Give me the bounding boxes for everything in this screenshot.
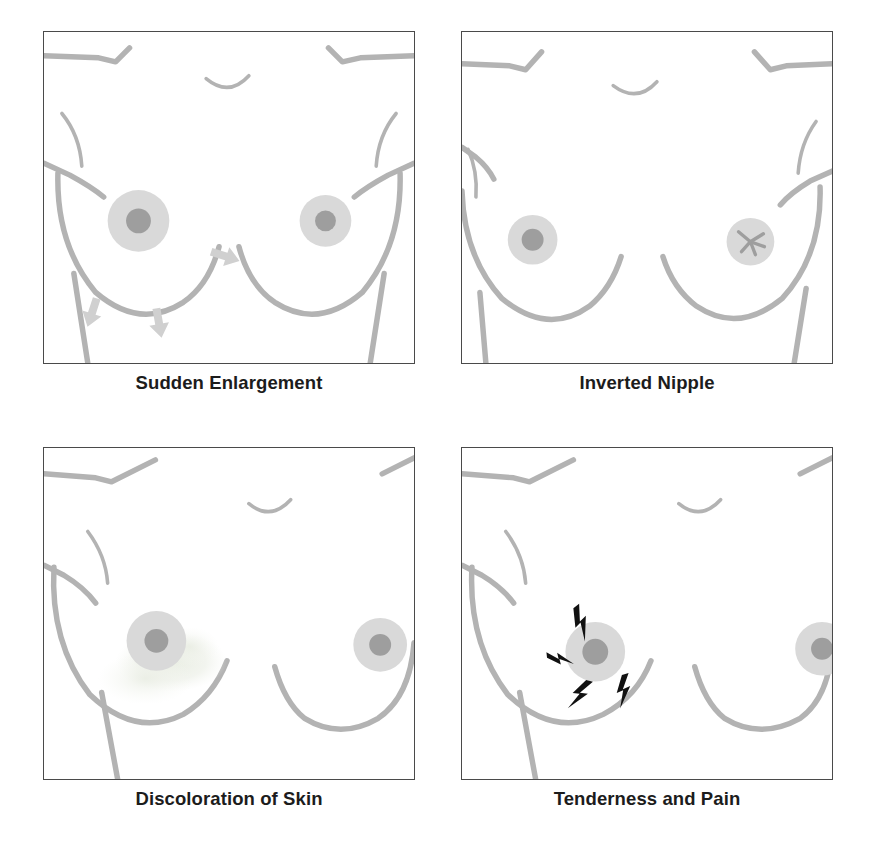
torso-illustration xyxy=(44,448,414,779)
clavicle-left-line xyxy=(462,460,573,482)
clavicle-right-line xyxy=(382,458,414,474)
torso-left-side xyxy=(520,693,536,779)
torso-illustration xyxy=(462,448,832,779)
panel-caption-inverted-nipple: Inverted Nipple xyxy=(461,372,833,394)
sternal-notch-arc xyxy=(206,76,249,88)
panel-frame xyxy=(461,31,833,364)
torso-illustration xyxy=(462,32,832,363)
nipple-left xyxy=(522,229,544,251)
panel-tenderness-and-pain: Tenderness and Pain xyxy=(461,447,833,780)
armpit-left-crease xyxy=(62,114,82,167)
areola-group xyxy=(127,611,407,672)
panel-caption-sudden-enlargement: Sudden Enlargement xyxy=(43,372,415,394)
nipple-left xyxy=(144,629,168,653)
enlargement-arrow-group xyxy=(78,242,243,339)
clavicle-left-line xyxy=(462,52,542,70)
sternal-notch-arc xyxy=(613,82,657,94)
armpit-left-crease xyxy=(506,531,526,583)
nipple-right xyxy=(369,634,391,656)
lightning-bolt-icon-lower-left xyxy=(568,677,593,712)
panel-sudden-enlargement: Sudden Enlargement xyxy=(43,31,415,364)
nipple-right xyxy=(811,638,832,660)
sternal-notch-arc xyxy=(679,500,721,512)
nipple-left xyxy=(582,639,608,665)
panel-inverted-nipple: Inverted Nipple xyxy=(461,31,833,364)
nipple-left xyxy=(126,208,151,233)
clavicle-left-line xyxy=(44,48,130,62)
areola-group xyxy=(508,215,775,266)
clavicle-right-line xyxy=(754,52,832,70)
clavicle-left-line xyxy=(44,460,155,482)
panel-frame xyxy=(461,447,833,780)
panel-caption-discoloration-of-skin: Discoloration of Skin xyxy=(43,788,415,810)
panel-frame xyxy=(43,31,415,364)
sternal-notch-arc xyxy=(249,500,291,512)
armpit-right-crease xyxy=(798,121,816,173)
armpit-left-crease xyxy=(88,531,108,583)
clavicle-right-line xyxy=(328,48,414,62)
panel-frame xyxy=(43,447,415,780)
arm-right-line xyxy=(354,163,414,197)
arm-left-line xyxy=(44,163,104,197)
clavicle-right-line xyxy=(800,458,832,474)
nipple-right xyxy=(315,210,336,231)
figure-root: Sudden Enlargement xyxy=(0,0,886,862)
areola-group xyxy=(108,190,352,252)
panel-caption-tenderness-and-pain: Tenderness and Pain xyxy=(461,788,833,810)
armpit-right-crease xyxy=(376,114,396,167)
torso-right-side xyxy=(794,288,806,363)
torso-right-side xyxy=(370,274,384,363)
torso-left-side xyxy=(102,693,118,779)
torso-left-side xyxy=(480,292,486,363)
panel-discoloration-of-skin: Discoloration of Skin xyxy=(43,447,415,780)
arm-right-line xyxy=(780,171,832,205)
arm-left-line xyxy=(462,147,494,179)
torso-illustration xyxy=(44,32,414,363)
